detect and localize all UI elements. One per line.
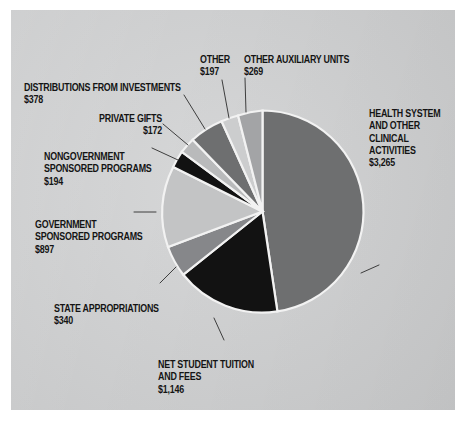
callout-health-system-value: $3,265 (369, 157, 441, 169)
callout-other-value: $197 (200, 66, 230, 78)
callout-nongovernment-sponsored-programs: NONGOVERNMENT SPONSORED PROGRAMS $194 (44, 139, 152, 200)
callout-nongovernment-sponsored-programs-text: NONGOVERNMENT SPONSORED PROGRAMS (44, 151, 152, 174)
callout-net-student-tuition-and-fees-value: $1,146 (158, 384, 254, 396)
leader-line-net-student-tuition (214, 318, 224, 340)
leader-line-distributions-from-investments (184, 95, 205, 129)
callout-government-sponsored-programs-value: $897 (35, 244, 143, 256)
leader-line-state-appropriations (160, 267, 176, 283)
callout-government-sponsored-programs: GOVERNMENT SPONSORED PROGRAMS $897 (35, 207, 143, 268)
callout-other-auxiliary-units-text: OTHER AUXILIARY UNITS (244, 54, 349, 65)
callout-private-gifts-value: $172 (60, 125, 162, 137)
callout-health-system: HEALTH SYSTEM AND OTHER CLINICAL ACTIVIT… (369, 96, 441, 181)
callout-net-student-tuition-and-fees: NET STUDENT TUITION AND FEES $1,146 (158, 347, 254, 408)
callout-government-sponsored-programs-text: GOVERNMENT SPONSORED PROGRAMS (35, 219, 143, 242)
chart-figure: OTHER $197 OTHER AUXILIARY UNITS $269 DI… (0, 0, 470, 424)
callout-state-appropriations-text: STATE APPROPRIATIONS (54, 303, 159, 314)
leader-line-health-system (361, 265, 379, 273)
callout-state-appropriations: STATE APPROPRIATIONS $340 (54, 291, 159, 340)
callout-nongovernment-sponsored-programs-value: $194 (44, 176, 152, 188)
callout-distributions-from-investments-text: DISTRIBUTIONS FROM INVESTMENTS (24, 82, 181, 93)
callout-health-system-text: HEALTH SYSTEM AND OTHER CLINICAL ACTIVIT… (369, 108, 441, 156)
callout-other-auxiliary-units-value: $269 (244, 66, 349, 78)
pie-slice-health-system[interactable] (263, 111, 364, 312)
callout-state-appropriations-value: $340 (54, 315, 159, 327)
callout-other-auxiliary-units: OTHER AUXILIARY UNITS $269 (244, 42, 349, 91)
callout-other-text: OTHER (200, 54, 230, 65)
callout-other: OTHER $197 (200, 42, 230, 91)
leader-line-private-gifts (163, 124, 188, 145)
pie-slices (162, 111, 363, 313)
callout-net-student-tuition-and-fees-text: NET STUDENT TUITION AND FEES (158, 359, 254, 382)
callout-private-gifts-text: PRIVATE GIFTS (99, 113, 162, 124)
